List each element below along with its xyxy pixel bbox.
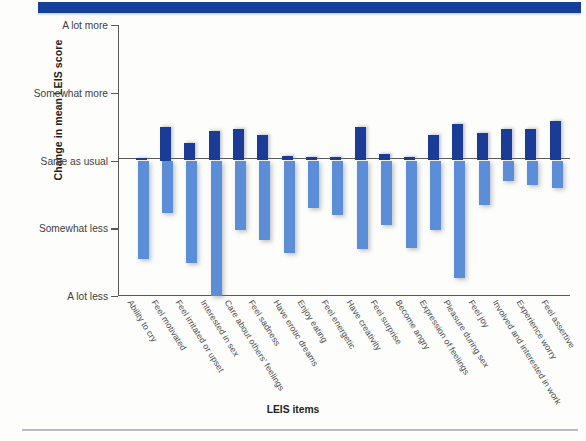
x-axis-title: LEIS items bbox=[0, 404, 586, 415]
bar-negative[interactable] bbox=[259, 161, 270, 241]
bar-negative[interactable] bbox=[454, 161, 465, 278]
bar-negative[interactable] bbox=[381, 161, 392, 225]
bar-positive[interactable] bbox=[525, 129, 536, 161]
y-axis-tick bbox=[111, 25, 118, 26]
bar-negative[interactable] bbox=[357, 161, 368, 249]
bar-negative[interactable] bbox=[430, 161, 441, 230]
bar-positive[interactable] bbox=[550, 121, 561, 161]
bar-positive[interactable] bbox=[477, 133, 488, 161]
top-blue-banner bbox=[38, 2, 581, 13]
bar-negative[interactable] bbox=[284, 161, 295, 254]
bar-series-group bbox=[118, 25, 570, 296]
x-axis-tick-label: Feel joy bbox=[466, 298, 491, 330]
banner-shadow bbox=[38, 13, 581, 16]
y-axis-title: Change in mean LEIS score bbox=[52, 0, 64, 220]
y-axis-tick-label: Somewhat more bbox=[34, 87, 108, 98]
y-axis-tick-label: Same as usual bbox=[41, 155, 108, 166]
bar-positive[interactable] bbox=[160, 127, 171, 161]
figure-container: Change in mean LEIS score A lot moreSome… bbox=[0, 0, 586, 441]
bottom-rule bbox=[22, 429, 578, 431]
bar-negative[interactable] bbox=[406, 161, 417, 248]
bar-positive[interactable] bbox=[452, 124, 463, 161]
x-axis-tick-label: Have erotic dreams bbox=[271, 298, 320, 368]
x-axis-labels: Ability to cryFeel motivatedFeel irritat… bbox=[118, 298, 570, 418]
bar-positive[interactable] bbox=[209, 131, 220, 160]
bar-positive[interactable] bbox=[257, 135, 268, 161]
y-axis-tick-label: A lot less bbox=[67, 291, 108, 302]
y-axis-tick-label: A lot more bbox=[62, 20, 108, 31]
bar-negative[interactable] bbox=[527, 161, 538, 185]
y-axis-tick bbox=[111, 228, 118, 229]
bar-positive[interactable] bbox=[233, 129, 244, 160]
bar-negative[interactable] bbox=[503, 161, 514, 181]
x-axis-tick-label: Pleasure during sex bbox=[442, 298, 492, 369]
bar-negative[interactable] bbox=[211, 161, 222, 297]
bar-positive[interactable] bbox=[428, 135, 439, 160]
bar-negative[interactable] bbox=[552, 161, 563, 188]
bar-positive[interactable] bbox=[501, 129, 512, 161]
bar-negative[interactable] bbox=[186, 161, 197, 263]
bar-positive[interactable] bbox=[355, 127, 366, 160]
y-axis-labels: Change in mean LEIS score A lot moreSome… bbox=[0, 0, 118, 441]
y-axis-tick-label: Somewhat less bbox=[39, 223, 108, 234]
bar-negative[interactable] bbox=[332, 161, 343, 215]
bar-negative[interactable] bbox=[162, 161, 173, 214]
bar-negative[interactable] bbox=[308, 161, 319, 208]
bar-negative[interactable] bbox=[138, 161, 149, 260]
y-axis-tick bbox=[111, 296, 118, 297]
bar-negative[interactable] bbox=[235, 161, 246, 230]
bar-positive[interactable] bbox=[379, 154, 390, 161]
bar-negative[interactable] bbox=[479, 161, 490, 205]
bar-positive[interactable] bbox=[184, 143, 195, 161]
y-axis-tick bbox=[111, 161, 118, 162]
y-axis-tick bbox=[111, 93, 118, 94]
